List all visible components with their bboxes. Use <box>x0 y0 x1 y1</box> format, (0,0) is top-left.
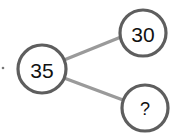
whole-node: 35 <box>18 45 66 93</box>
connector-whole-to-part-1 <box>64 37 121 60</box>
part-node-1-label: 30 <box>131 23 154 46</box>
part-node-2-label: ? <box>140 99 150 119</box>
connector-whole-to-part-2 <box>64 78 123 100</box>
whole-node-label: 35 <box>30 59 53 82</box>
bullet-dot <box>2 67 5 70</box>
number-bond-diagram: 35 30 ? <box>0 0 181 138</box>
part-node-1: 30 <box>120 10 166 56</box>
part-node-2: ? <box>122 85 168 131</box>
